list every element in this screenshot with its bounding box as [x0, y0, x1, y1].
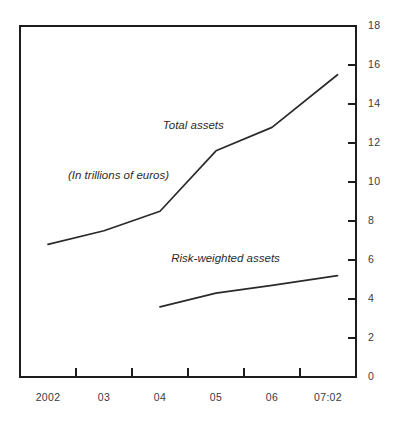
x-tick-label: 2002: [36, 391, 61, 403]
plot-frame: [20, 26, 356, 377]
y-tick-label: 14: [368, 97, 380, 109]
series-line-total-assets: [48, 75, 338, 245]
y-axis-ticks: [348, 65, 356, 338]
y-tick-label: 12: [368, 136, 380, 148]
x-tick-label: 05: [210, 391, 222, 403]
y-tick-label: 18: [368, 19, 380, 31]
series-line-risk-weighted-assets: [160, 276, 338, 307]
series-label-risk-weighted-assets: Risk-weighted assets: [171, 252, 280, 264]
y-axis-tick-labels: 024681012141618: [368, 19, 380, 382]
y-tick-label: 2: [368, 331, 374, 343]
chart-container: 024681012141618 20020304050607:02 Total …: [0, 0, 400, 421]
line-chart-figure: 024681012141618 20020304050607:02 Total …: [0, 0, 400, 421]
y-tick-label: 16: [368, 58, 380, 70]
series-lines-group: [48, 75, 338, 307]
x-tick-label: 07:02: [314, 391, 342, 403]
x-axis-ticks: [76, 368, 300, 377]
y-tick-label: 6: [368, 253, 374, 265]
y-tick-label: 10: [368, 175, 380, 187]
x-tick-label: 03: [98, 391, 110, 403]
x-tick-label: 04: [154, 391, 166, 403]
x-axis-tick-labels: 20020304050607:02: [36, 391, 342, 403]
y-tick-label: 0: [368, 370, 374, 382]
y-tick-label: 8: [368, 214, 374, 226]
y-tick-label: 4: [368, 292, 374, 304]
series-label-total-assets: Total assets: [163, 119, 224, 131]
units-annotation: (In trillions of euros): [68, 169, 169, 181]
x-tick-label: 06: [266, 391, 278, 403]
